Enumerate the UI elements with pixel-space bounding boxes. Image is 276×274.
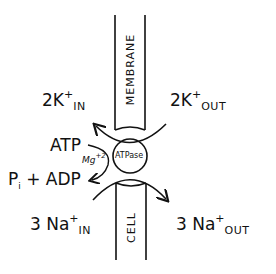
na-in-label: 3 Na+IN (30, 216, 91, 233)
na-in-side: IN (79, 224, 91, 237)
na-transport-arrow (93, 180, 166, 200)
k-in-coef: 2K (42, 90, 64, 110)
atpase-label: ATPase (115, 152, 143, 160)
na-in-charge: + (69, 212, 78, 225)
products-label: Pi + ADP (8, 171, 81, 188)
na-out-label: 3 Na+OUT (176, 216, 250, 233)
na-out-coef: 3 Na (176, 214, 215, 234)
pi-subscript: i (18, 181, 21, 191)
k-in-side: IN (73, 100, 85, 113)
k-out-coef: 2K (170, 90, 192, 110)
k-out-charge: + (192, 88, 201, 101)
k-out-label: 2K+OUT (170, 92, 226, 109)
k-in-charge: + (64, 88, 73, 101)
membrane-label: MEMBRANE (125, 29, 136, 111)
na-out-side: OUT (225, 224, 250, 237)
k-out-side: OUT (201, 100, 226, 113)
na-in-coef: 3 Na (30, 214, 69, 234)
mg-charge: +2 (95, 152, 105, 160)
pi-label: P (8, 169, 18, 189)
adp-label: + ADP (26, 169, 81, 189)
atp-label: ATP (50, 137, 81, 154)
k-in-label: 2K+IN (42, 92, 86, 109)
na-out-charge: + (215, 212, 224, 225)
mg-cofactor-label: Mg+2 (82, 156, 106, 165)
cell-label: CELL (126, 208, 137, 248)
mg-base: Mg (82, 155, 95, 165)
